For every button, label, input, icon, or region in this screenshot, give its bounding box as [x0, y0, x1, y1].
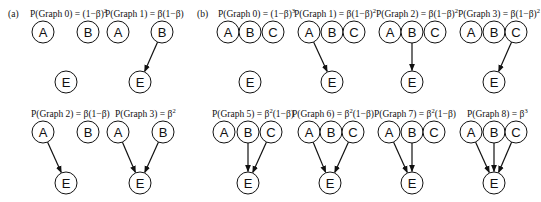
node-e: E: [321, 71, 343, 93]
graph: P(Graph 7) = β2(1−β)ABCE: [374, 107, 456, 194]
node-e: E: [483, 172, 505, 194]
node-c: C: [262, 21, 284, 43]
node-e: E: [401, 172, 423, 194]
graph-title: P(Graph 2) = β(1−β): [31, 109, 110, 120]
node-a: A: [213, 121, 235, 143]
node-a: A: [298, 21, 320, 43]
svg-text:B: B: [84, 125, 93, 140]
svg-text:A: A: [114, 25, 123, 40]
node-c: C: [505, 21, 527, 43]
svg-text:C: C: [429, 125, 438, 140]
node-e: E: [401, 71, 423, 93]
node-a: A: [107, 21, 129, 43]
svg-text:E: E: [136, 75, 145, 90]
node-b: B: [151, 21, 173, 43]
graph-title: P(Graph 0) = (1−β)2: [30, 7, 107, 20]
svg-text:C: C: [349, 25, 358, 40]
edge-c-to-e: [335, 142, 349, 172]
svg-text:A: A: [305, 25, 314, 40]
svg-text:E: E: [244, 176, 253, 191]
graph: P(Graph 2) = β(1−β)2ABCE: [376, 7, 458, 93]
graph-title: P(Graph 6) = β2(1−β): [292, 107, 374, 120]
graph: P(Graph 8) = β3ABCE: [460, 107, 528, 194]
node-a: A: [378, 121, 400, 143]
node-a: A: [298, 121, 320, 143]
svg-text:B: B: [490, 25, 499, 40]
svg-text:B: B: [246, 25, 255, 40]
node-a: A: [32, 121, 54, 143]
svg-text:A: A: [467, 25, 476, 40]
node-c: C: [505, 121, 527, 143]
node-a: A: [460, 121, 482, 143]
graph-title: P(Graph 2) = β(1−β)2: [376, 7, 458, 20]
svg-text:B: B: [158, 25, 167, 40]
node-e: E: [239, 71, 261, 93]
svg-text:C: C: [348, 125, 357, 140]
node-a: A: [217, 21, 239, 43]
node-b: B: [152, 121, 174, 143]
node-c: C: [424, 21, 446, 43]
svg-text:B: B: [328, 25, 337, 40]
node-e: E: [319, 172, 341, 194]
svg-text:A: A: [220, 125, 229, 140]
svg-text:C: C: [268, 25, 277, 40]
graph-title: P(Graph 8) = β3: [467, 107, 528, 120]
graph-title: P(Graph 3) = β2: [115, 107, 176, 120]
svg-text:E: E: [136, 176, 145, 191]
edge-a-to-e: [476, 142, 490, 172]
svg-text:A: A: [467, 125, 476, 140]
node-c: C: [260, 121, 282, 143]
panel-b: (b)P(Graph 0) = (1−β)3ABCEP(Graph 1) = β…: [197, 7, 540, 194]
svg-text:E: E: [328, 75, 337, 90]
svg-text:E: E: [408, 176, 417, 191]
graph: P(Graph 0) = (1−β)3ABCE: [217, 7, 295, 93]
graph: P(Graph 3) = β(1−β)2ABCE: [458, 7, 540, 93]
panel-label: (b): [197, 9, 208, 20]
svg-text:A: A: [114, 125, 123, 140]
node-a: A: [460, 21, 482, 43]
node-e: E: [483, 71, 505, 93]
svg-text:E: E: [62, 176, 71, 191]
edge-c-to-e: [499, 42, 512, 71]
svg-text:B: B: [244, 125, 253, 140]
edge-a-to-e: [48, 142, 62, 172]
exponent: 2: [537, 7, 540, 14]
edge-a-to-e: [313, 142, 325, 172]
edge-a-to-e: [394, 142, 408, 172]
svg-text:C: C: [511, 125, 520, 140]
graph: P(Graph 5) = β2(1−β)ABCE: [212, 107, 294, 194]
node-e: E: [237, 172, 259, 194]
node-c: C: [343, 21, 365, 43]
svg-text:E: E: [246, 75, 255, 90]
edge-c-to-e: [253, 142, 267, 172]
svg-text:B: B: [408, 25, 417, 40]
svg-text:C: C: [430, 25, 439, 40]
graph-title: P(Graph 0) = (1−β)3: [218, 7, 295, 20]
svg-text:B: B: [159, 125, 168, 140]
node-e: E: [55, 172, 77, 194]
node-b: B: [237, 121, 259, 143]
exponent: 2: [172, 107, 175, 114]
svg-text:A: A: [386, 25, 395, 40]
svg-text:B: B: [408, 125, 417, 140]
node-b: B: [321, 21, 343, 43]
node-b: B: [77, 21, 99, 43]
graph: P(Graph 1) = β(1−β)ABE: [105, 9, 184, 93]
edge-a-to-e: [314, 42, 328, 72]
svg-text:A: A: [305, 125, 314, 140]
node-e: E: [129, 71, 151, 93]
svg-text:A: A: [224, 25, 233, 40]
svg-text:E: E: [490, 75, 499, 90]
svg-text:C: C: [266, 125, 275, 140]
node-e: E: [55, 71, 77, 93]
edge-a-to-e: [122, 142, 135, 172]
svg-text:A: A: [385, 125, 394, 140]
graph: P(Graph 1) = β(1−β)2ABCE: [294, 7, 376, 93]
svg-text:B: B: [84, 25, 93, 40]
graph-title: P(Graph 7) = β2(1−β): [374, 107, 456, 120]
graph: P(Graph 6) = β2(1−β)ABCE: [292, 107, 374, 194]
graph-title: P(Graph 5) = β2(1−β): [212, 107, 294, 120]
svg-text:B: B: [490, 125, 499, 140]
diagram-canvas: (a)P(Graph 0) = (1−β)2ABEP(Graph 1) = β(…: [0, 0, 541, 202]
node-b: B: [483, 21, 505, 43]
